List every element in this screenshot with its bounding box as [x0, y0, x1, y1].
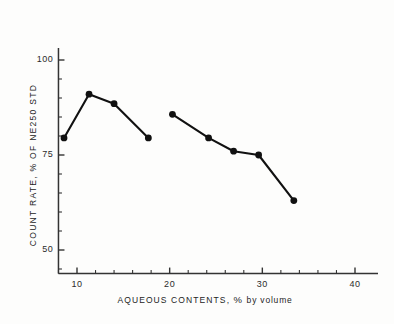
x-tick-label: 20 [155, 279, 185, 289]
series-line-1 [64, 94, 148, 138]
data-point [169, 111, 176, 118]
x-tick-label: 10 [62, 279, 92, 289]
x-axis-title-prefix: AQUEOUS CONTENTS, [117, 295, 230, 305]
x-axis-title: AQUEOUS CONTENTS, % by volume [60, 294, 350, 305]
data-point [145, 135, 152, 142]
data-point [111, 100, 118, 107]
axis-ticks [58, 60, 355, 274]
x-tick-label: 40 [340, 279, 370, 289]
data-point [61, 135, 68, 142]
data-point [86, 91, 93, 98]
data-point [205, 135, 212, 142]
x-axis-title-suffix: by volume [247, 295, 293, 305]
y-axis-title: COUNT RATE, % OF NE250 STD [28, 70, 38, 260]
axes [58, 48, 378, 274]
x-tick-label: 30 [247, 279, 277, 289]
data-point [290, 197, 297, 204]
data-point [230, 148, 237, 155]
data-series [61, 91, 298, 204]
chart-figure: 507510010203040 COUNT RATE, % OF NE250 S… [0, 0, 394, 324]
x-axis-title-percent: % [234, 294, 244, 305]
y-tick-label: 100 [23, 54, 53, 64]
series-line-2 [172, 114, 293, 200]
data-point [255, 152, 262, 159]
chart-plot-area [0, 0, 394, 324]
